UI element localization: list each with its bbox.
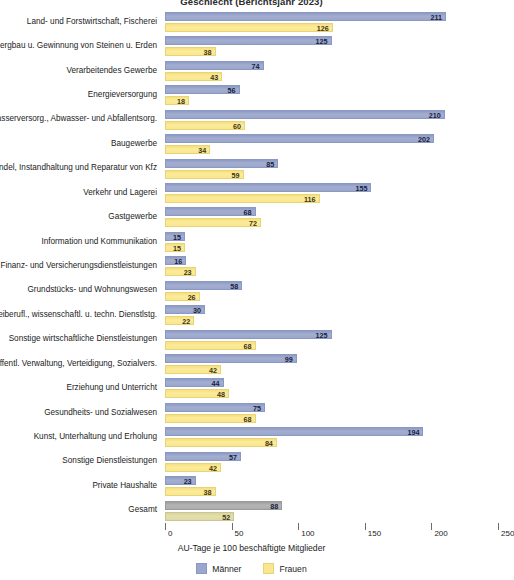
bar-frauen[interactable]: 34 <box>165 145 210 154</box>
category-label: Gesundheits- und Sozialwesen <box>0 401 161 423</box>
x-axis-tick-label: 100 <box>301 529 314 538</box>
bar-maenner[interactable]: 75 <box>165 403 265 412</box>
x-axis-tick <box>298 523 299 530</box>
bar-maenner[interactable]: 194 <box>165 427 423 436</box>
bar-value-label: 42 <box>209 465 217 473</box>
legend-label: Männer <box>212 564 241 574</box>
x-axis-title: AU-Tage je 100 beschäftigte Mitglieder <box>0 543 503 553</box>
bar-maenner[interactable]: 56 <box>165 85 240 94</box>
bar-frauen[interactable]: 18 <box>165 96 189 105</box>
bar-group: 5826 <box>165 281 498 303</box>
bar-maenner[interactable]: 16 <box>165 256 186 265</box>
bar-value-label: 202 <box>418 136 430 144</box>
plot-area: 2111261253874435618210602023485591551166… <box>165 10 498 523</box>
bar-maenner[interactable]: 23 <box>165 476 196 485</box>
category-label: Private Haushalte <box>0 474 161 496</box>
bar-frauen[interactable]: 84 <box>165 438 277 447</box>
bar-value-label: 88 <box>270 503 278 511</box>
bar-maenner[interactable]: 58 <box>165 281 242 290</box>
bar-frauen[interactable]: 68 <box>165 341 256 350</box>
bar-group: 4448 <box>165 378 498 400</box>
bar-frauen[interactable]: 26 <box>165 292 200 301</box>
bar-value-label: 68 <box>244 209 252 217</box>
bar-frauen[interactable]: 43 <box>165 72 222 81</box>
bar-value-label: 84 <box>265 440 273 448</box>
category-label: Verkehr und Lagerei <box>0 181 161 203</box>
legend-label: Frauen <box>279 564 306 574</box>
bar-frauen[interactable]: 38 <box>165 47 216 56</box>
bar-maenner[interactable]: 88 <box>165 501 282 510</box>
bar-group: 19484 <box>165 427 498 449</box>
bar-value-label: 210 <box>429 112 441 120</box>
bar-group: 6872 <box>165 207 498 229</box>
bar-value-label: 68 <box>244 416 252 424</box>
bar-group: 20234 <box>165 134 498 156</box>
legend-item[interactable]: Frauen <box>263 563 306 574</box>
x-axis-tick <box>365 523 366 530</box>
bar-frauen[interactable]: 23 <box>165 267 196 276</box>
bar-value-label: 38 <box>204 489 212 497</box>
bar-frauen[interactable]: 72 <box>165 218 261 227</box>
bar-frauen[interactable]: 15 <box>165 243 185 252</box>
bar-maenner[interactable]: 57 <box>165 452 241 461</box>
bar-frauen[interactable]: 60 <box>165 121 245 130</box>
bar-group: 12538 <box>165 36 498 58</box>
bar-maenner[interactable]: 211 <box>165 12 446 21</box>
bar-maenner[interactable]: 202 <box>165 134 434 143</box>
bar-frauen[interactable]: 126 <box>165 23 333 32</box>
bar-group: 8559 <box>165 159 498 181</box>
bar-maenner[interactable]: 99 <box>165 354 297 363</box>
bar-maenner[interactable]: 15 <box>165 232 185 241</box>
bar-maenner[interactable]: 68 <box>165 207 256 216</box>
bar-group: 7443 <box>165 61 498 83</box>
category-axis-labels: Land- und Forstwirtschaft, FischereiBerg… <box>0 10 161 523</box>
bar-maenner[interactable]: 125 <box>165 330 332 339</box>
bar-value-label: 74 <box>252 63 260 71</box>
bar-maenner[interactable]: 44 <box>165 378 224 387</box>
bar-maenner[interactable]: 155 <box>165 183 371 192</box>
bar-frauen[interactable]: 68 <box>165 414 256 423</box>
category-label: Information und Kommunikation <box>0 230 161 252</box>
x-axis-tick-label: 50 <box>235 529 244 538</box>
bar-frauen[interactable]: 42 <box>165 463 221 472</box>
bar-frauen[interactable]: 48 <box>165 389 229 398</box>
bar-value-label: 15 <box>173 234 181 242</box>
bar-maenner[interactable]: 210 <box>165 110 445 119</box>
x-axis-tick-label: 150 <box>368 529 381 538</box>
chart-legend: MännerFrauen <box>0 563 503 574</box>
bar-group: 2338 <box>165 476 498 498</box>
bar-maenner[interactable]: 30 <box>165 305 205 314</box>
category-label: Energieversorgung <box>0 83 161 105</box>
bar-value-label: 56 <box>228 87 236 95</box>
x-axis-tick-label: 250 <box>501 529 514 538</box>
bar-value-label: 23 <box>184 478 192 486</box>
bar-value-label: 116 <box>304 196 316 204</box>
bar-value-label: 155 <box>355 185 367 193</box>
legend-item[interactable]: Männer <box>196 563 241 574</box>
bar-value-label: 85 <box>266 161 274 169</box>
bar-value-label: 48 <box>217 391 225 399</box>
category-label: Baugewerbe <box>0 132 161 154</box>
bar-frauen[interactable]: 22 <box>165 316 194 325</box>
x-axis-tick <box>498 523 499 530</box>
category-label: Grundstücks- und Wohnungswesen <box>0 279 161 301</box>
bar-frauen[interactable]: 38 <box>165 487 216 496</box>
bar-maenner[interactable]: 85 <box>165 159 278 168</box>
bar-frauen[interactable]: 52 <box>165 512 234 521</box>
bar-group: 7568 <box>165 403 498 425</box>
bar-group: 9942 <box>165 354 498 376</box>
bar-frauen[interactable]: 42 <box>165 365 221 374</box>
bar-value-label: 126 <box>317 25 329 33</box>
bar-value-label: 15 <box>173 245 181 253</box>
bar-value-label: 43 <box>210 74 218 82</box>
bar-value-label: 52 <box>222 514 230 522</box>
bar-value-label: 57 <box>229 454 237 462</box>
bar-group: 5742 <box>165 452 498 474</box>
bar-maenner[interactable]: 74 <box>165 61 264 70</box>
bar-maenner[interactable]: 125 <box>165 36 332 45</box>
bar-value-label: 30 <box>193 307 201 315</box>
bar-frauen[interactable]: 116 <box>165 194 320 203</box>
category-label: Freiberufl., wissenschaftl. u. techn. Di… <box>0 303 161 325</box>
bar-frauen[interactable]: 59 <box>165 170 244 179</box>
bar-value-label: 72 <box>249 220 257 228</box>
